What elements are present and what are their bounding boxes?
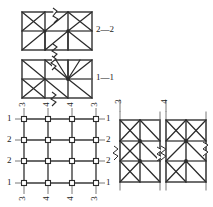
- column-node: [94, 159, 99, 164]
- e4-node-1: [184, 139, 188, 143]
- b2-8: [68, 79, 92, 98]
- elevation-label-4: 4: [160, 99, 169, 104]
- column-node: [70, 117, 75, 122]
- plan-bottom-label-2: 4: [42, 196, 51, 201]
- plan-left-label-4: 1: [7, 178, 12, 187]
- plan-top-label-1: 3: [18, 102, 27, 107]
- e4-node-2: [184, 159, 188, 163]
- plan-leader-ticks: [15, 108, 105, 194]
- b2-1: [22, 60, 45, 79]
- column-node: [70, 138, 75, 143]
- section-label-2-2: 2—2: [96, 25, 114, 34]
- plan-top-label-3: 4: [66, 102, 75, 107]
- plan-right-label-3: 2: [106, 156, 111, 165]
- column-node: [70, 181, 75, 186]
- elevation-4-frame: [166, 112, 206, 190]
- plan-column-markers: [22, 117, 99, 186]
- brace-2: [22, 31, 45, 50]
- column-node: [22, 159, 27, 164]
- node-dot-2: [43, 29, 46, 32]
- section-label-1-1: 1—1: [96, 73, 114, 82]
- column-node: [94, 138, 99, 143]
- zigzag-break-e3-left: [113, 146, 118, 160]
- b2-7: [68, 60, 92, 79]
- plan-left-label-2: 2: [7, 135, 12, 144]
- brace-9: [68, 31, 92, 50]
- b2-9: [56, 60, 68, 79]
- plan-right-label-4: 1: [106, 178, 111, 187]
- column-node: [94, 117, 99, 122]
- zigzag-break-lower-2: [51, 92, 56, 106]
- column-node: [22, 181, 27, 186]
- column-node: [94, 181, 99, 186]
- node-dot: [66, 29, 70, 33]
- plan-grid-lines: [24, 119, 96, 183]
- figure-root: 2—2 1—1 1 2 2 1 1 2 2 1 3 4 4 3 3 4 4 3 …: [0, 0, 213, 207]
- e4-b5: [166, 141, 186, 161]
- section-2-2-panel: [22, 12, 92, 50]
- e3-node-2: [138, 159, 142, 163]
- node-dot-3: [66, 77, 70, 81]
- e3-node-1: [138, 139, 142, 143]
- column-node: [22, 117, 27, 122]
- plan-left-label-3: 2: [7, 156, 12, 165]
- column-node: [46, 117, 51, 122]
- column-node: [22, 138, 27, 143]
- column-node: [46, 138, 51, 143]
- plan-bottom-label-4: 3: [90, 196, 99, 201]
- plan-bottom-label-3: 4: [66, 196, 75, 201]
- e3-b9: [140, 161, 160, 182]
- elevation-3-frame: [120, 112, 160, 190]
- column-node: [70, 159, 75, 164]
- plan-top-label-2: 4: [42, 102, 51, 107]
- plan-right-label-2: 2: [106, 135, 111, 144]
- plan-bottom-label-1: 3: [18, 196, 27, 201]
- column-node: [46, 159, 51, 164]
- column-node: [46, 181, 51, 186]
- plan-right-label-1: 1: [106, 114, 111, 123]
- b2-4: [45, 60, 68, 79]
- section-1-1-panel: [22, 60, 92, 98]
- e3-b3: [140, 120, 160, 141]
- brace-4: [45, 12, 68, 31]
- e4-b9: [186, 161, 206, 182]
- elevation-label-3: 3: [114, 99, 123, 104]
- plan-left-label-1: 1: [7, 114, 12, 123]
- b2-10: [68, 60, 80, 79]
- elevation-4-breaks: [161, 142, 208, 160]
- plan-top-label-4: 3: [90, 102, 99, 107]
